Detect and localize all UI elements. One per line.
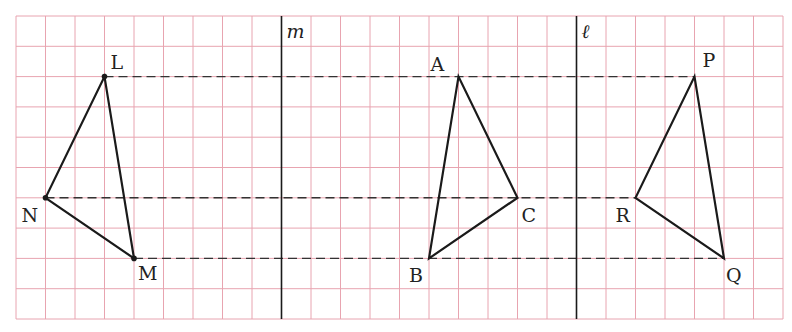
- reflection-diagram: mℓ LMNABCPQR: [0, 0, 792, 332]
- vertex-label-Q: Q: [726, 264, 742, 286]
- graph-paper-grid: [16, 16, 783, 319]
- vertex-label-C: C: [522, 204, 537, 226]
- vertex-label-M: M: [138, 262, 157, 284]
- vertex-label-N: N: [22, 204, 39, 226]
- axis-label-l: ℓ: [582, 20, 590, 42]
- vertex-dot-N: [43, 195, 49, 201]
- vertex-label-R: R: [616, 204, 631, 226]
- vertex-label-P: P: [703, 49, 716, 71]
- axis-label-m: m: [287, 20, 305, 42]
- vertex-dot-M: [131, 256, 137, 262]
- vertex-label-B: B: [409, 264, 423, 286]
- vertex-label-L: L: [111, 51, 124, 73]
- vertex-label-A: A: [430, 53, 445, 75]
- vertex-dot-L: [102, 74, 108, 80]
